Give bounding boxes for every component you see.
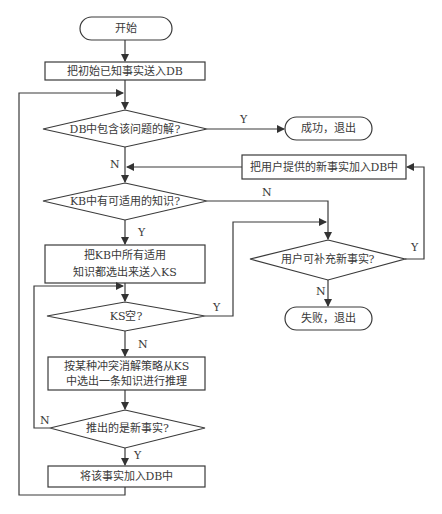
resolve-conflict-line2: 中选出一条知识进行推理 xyxy=(48,375,205,388)
resolve-conflict-line1: 按某种冲突消解策略从KS xyxy=(48,360,205,373)
db-contains-label: DB中包含该问题的解? xyxy=(45,123,205,136)
db-yes-label: Y xyxy=(240,113,247,126)
start-label: 开始 xyxy=(80,22,172,35)
new-no-label: N xyxy=(40,414,50,427)
success-label: 成功，退出 xyxy=(285,122,372,135)
add-user-facts-label: 把用户提供的新事实加入DB中 xyxy=(242,161,406,174)
ks-no-label: N xyxy=(138,338,148,351)
kb-applicable-label: KB中有可适用的知识? xyxy=(45,195,205,208)
user-yes-label: Y xyxy=(411,241,418,254)
add-fact-db-label: 将该事实加入DB中 xyxy=(48,470,205,483)
user-no-label: N xyxy=(316,285,326,298)
select-to-ks-line2: 知识都选出来送入KS xyxy=(45,266,205,279)
kb-yes-label: Y xyxy=(138,226,145,239)
kb-no-label: N xyxy=(262,186,272,199)
fail-label: 失败，退出 xyxy=(285,312,372,325)
user-can-add-label: 用户可补充新事实? xyxy=(250,253,405,266)
ks-empty-label: KS空? xyxy=(47,310,205,323)
new-fact-label: 推出的是新事实? xyxy=(50,422,205,435)
db-no-label: N xyxy=(110,158,120,171)
init-facts-label: 把初始已知事实送入DB xyxy=(45,65,205,78)
ks-yes-label: Y xyxy=(213,301,220,314)
new-yes-label: Y xyxy=(134,449,141,462)
select-to-ks-line1: 把KB中所有适用 xyxy=(45,249,205,262)
